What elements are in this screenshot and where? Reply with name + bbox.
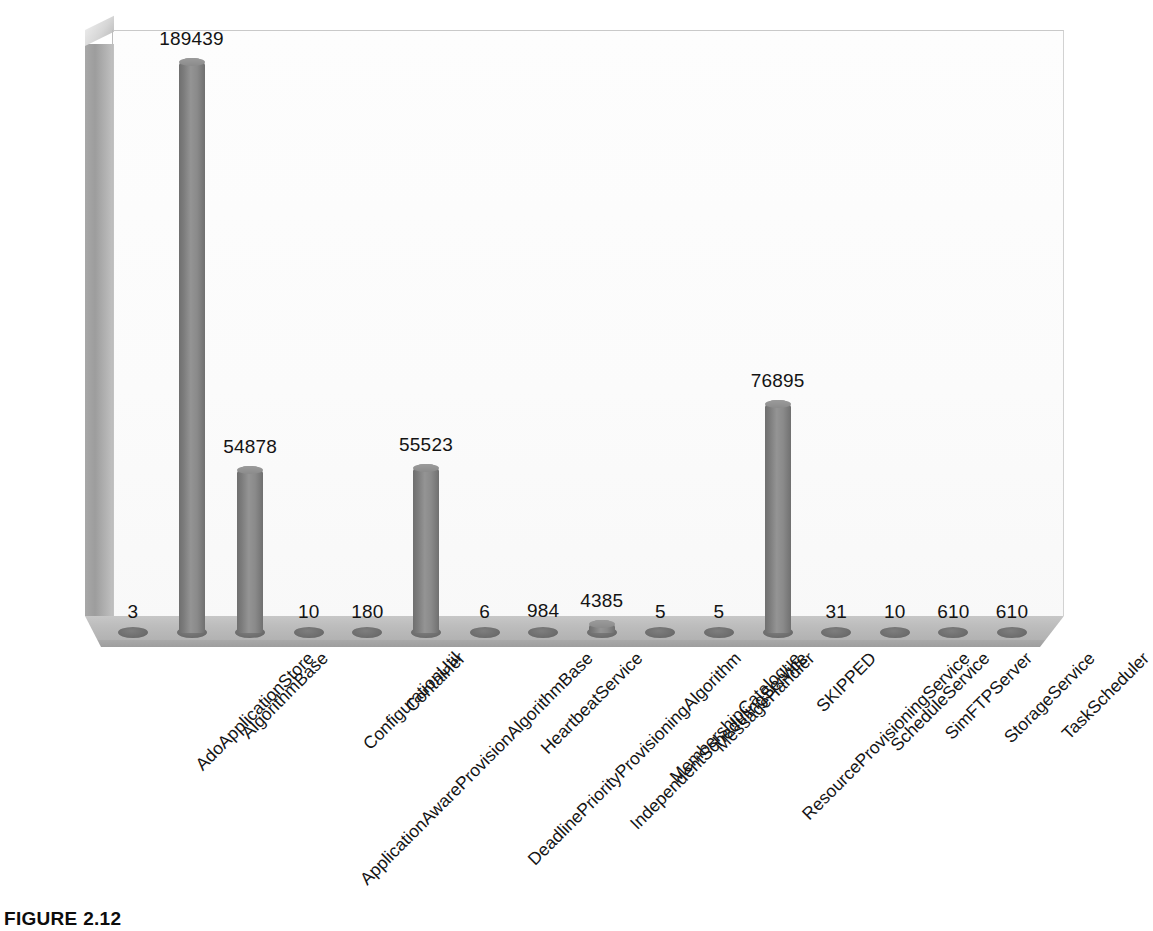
x-axis-label-AlgorithmBase: AlgorithmBase bbox=[237, 648, 332, 743]
figure-caption: FIGURE 2.12 bbox=[4, 908, 121, 930]
x-axis-label-ApplicationAwareProvisionAlgorithmBase: ApplicationAwareProvisionAlgorithmBase bbox=[356, 648, 598, 890]
x-axis-label-Container: Container bbox=[402, 648, 471, 717]
x-axis-label-SKIPPED: SKIPPED bbox=[812, 648, 881, 717]
